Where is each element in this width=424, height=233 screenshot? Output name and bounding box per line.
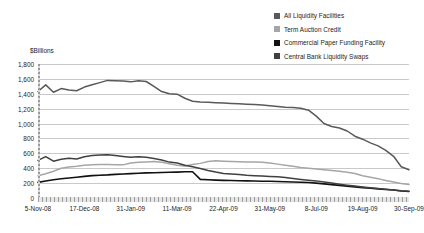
legend-label-swaps: Central Bank Liquidity Swaps bbox=[284, 53, 369, 60]
legend-label-cpff: Commercial Paper Funding Facility bbox=[284, 39, 385, 46]
legend-swatch-term-auction-icon bbox=[274, 26, 280, 32]
y-tick-0: 0 bbox=[30, 195, 34, 202]
legend-swatch-cpff-icon bbox=[274, 40, 280, 46]
legend-swatch-swaps-icon bbox=[274, 53, 280, 59]
x-tick-17-Dec-08: 17-Dec-08 bbox=[69, 205, 99, 212]
x-tick-22-Apr-09: 22-Apr-09 bbox=[209, 205, 237, 212]
x-tick-8-Jul-09: 8-Jul-09 bbox=[305, 205, 328, 212]
series-line-commercial-paper-funding-facility bbox=[38, 172, 409, 192]
x-tick-5-Nov-08: 5-Nov-08 bbox=[25, 205, 51, 212]
series-line-all-liquidity-facilities bbox=[38, 80, 409, 169]
y-tick-1400: 1,400 bbox=[18, 90, 34, 97]
y-tick-1600: 1,600 bbox=[18, 75, 34, 82]
x-tick-11-Mar-09: 11-Mar-09 bbox=[163, 205, 192, 212]
chart-legend: All Liquidity Facilities Term Auction Cr… bbox=[274, 10, 420, 64]
y-tick-1000: 1,000 bbox=[18, 120, 34, 127]
plot-area bbox=[38, 64, 409, 198]
y-tick-800: 800 bbox=[23, 135, 34, 142]
x-tick-31-Jan-09: 31-Jan-09 bbox=[116, 205, 145, 212]
y-tick-200: 200 bbox=[23, 180, 34, 187]
legend-item-all-liquidity-facilities: All Liquidity Facilities bbox=[274, 10, 420, 21]
series-lines bbox=[38, 64, 409, 198]
y-tick-1800: 1,800 bbox=[18, 61, 34, 68]
x-axis-tick-band bbox=[38, 197, 409, 202]
x-tick-31-May-09: 31-May-09 bbox=[255, 205, 286, 212]
y-tick-600: 600 bbox=[23, 150, 34, 157]
y-axis-title: $Billions bbox=[30, 47, 54, 54]
y-axis-tick-labels: 1,8001,6001,4001,2001,0008006004002000 bbox=[0, 64, 34, 198]
y-tick-400: 400 bbox=[23, 165, 34, 172]
x-tick-19-Aug-09: 19-Aug-09 bbox=[348, 205, 378, 212]
legend-item-commercial-paper-funding-facility: Commercial Paper Funding Facility bbox=[274, 37, 420, 48]
legend-label-term-auction: Term Auction Credit bbox=[284, 26, 341, 33]
y-tick-1200: 1,200 bbox=[18, 105, 34, 112]
legend-swatch-all-liquidity-icon bbox=[274, 13, 280, 19]
x-tick-30-Sep-09: 30-Sep-09 bbox=[394, 205, 424, 212]
y-axis-spine bbox=[38, 64, 40, 198]
x-axis-tick-labels: 5-Nov-0817-Dec-0831-Jan-0911-Mar-0922-Ap… bbox=[0, 205, 420, 219]
legend-item-term-auction-credit: Term Auction Credit bbox=[274, 24, 420, 35]
legend-item-central-bank-liquidity-swaps: Central Bank Liquidity Swaps bbox=[274, 51, 420, 62]
legend-label-all-liquidity: All Liquidity Facilities bbox=[284, 12, 344, 19]
